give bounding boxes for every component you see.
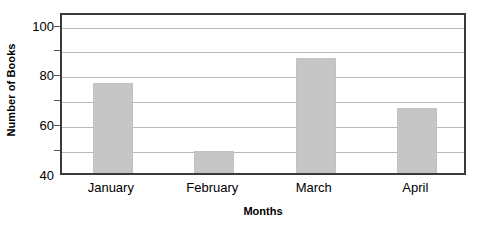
y-axis-title: Number of Books bbox=[0, 0, 22, 180]
bar-chart: Number of Books 406080100 JanuaryFebruar… bbox=[0, 0, 479, 233]
y-axis-tick-label: 80 bbox=[40, 68, 54, 83]
bar bbox=[296, 58, 336, 173]
x-axis-title: Months bbox=[60, 205, 466, 217]
x-axis-tick-label: April bbox=[402, 180, 428, 195]
bar bbox=[194, 151, 234, 173]
y-axis-title-label: Number of Books bbox=[5, 43, 17, 136]
y-axis-tick-labels: 406080100 bbox=[22, 0, 58, 190]
x-axis-tick-label: March bbox=[296, 180, 332, 195]
x-axis-tick-labels: JanuaryFebruaryMarchApril bbox=[60, 180, 466, 202]
x-axis-tick-label: January bbox=[88, 180, 134, 195]
x-axis-tick-label: February bbox=[186, 180, 238, 195]
bars-layer bbox=[62, 15, 464, 173]
y-axis-tick-label: 40 bbox=[40, 168, 54, 183]
y-axis-tick-label: 60 bbox=[40, 118, 54, 133]
y-axis-tick-label: 100 bbox=[32, 18, 54, 33]
bar bbox=[93, 83, 133, 173]
bar bbox=[397, 108, 437, 173]
plot-area bbox=[60, 13, 466, 175]
